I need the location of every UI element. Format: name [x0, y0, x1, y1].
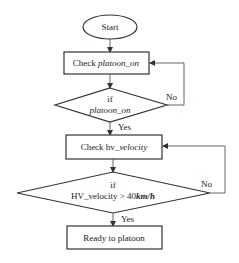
check-hv-label: Check hv_velocity — [81, 142, 148, 152]
if-hv-line1: if — [110, 180, 116, 190]
check-platoon-node: Check platoon_on — [64, 52, 149, 74]
start-label: Start — [102, 22, 119, 32]
yes-label-2: Yes — [121, 214, 135, 224]
check-hv-node: Check hv_velocity — [66, 135, 162, 159]
start-node: Start — [83, 15, 137, 39]
if-platoon-line1: if — [107, 94, 113, 104]
ready-label: Ready to platoon — [83, 233, 145, 243]
if-hv-line2: HV_velocity > 40km/h — [71, 191, 155, 201]
check-platoon-label: Check platoon_on — [73, 58, 140, 68]
no-label-2: No — [201, 179, 212, 189]
ready-node: Ready to platoon — [67, 226, 162, 249]
if-platoon-decision: if platoon_on — [55, 88, 167, 122]
no-label-1: No — [166, 92, 177, 102]
flowchart: Start Check platoon_on if platoon_on No … — [0, 0, 239, 263]
yes-label-1: Yes — [118, 122, 132, 132]
if-hv-decision: if HV_velocity > 40km/h — [17, 172, 210, 213]
if-platoon-line2: platoon_on — [88, 105, 131, 115]
